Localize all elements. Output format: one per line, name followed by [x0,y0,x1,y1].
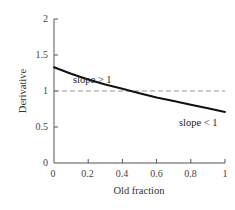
y-axis-title: Derivative [17,69,28,114]
chart: 2 1.5 1 0.5 0 0 0.2 0.4 0.6 0.8 1 Old fr… [0,0,235,210]
x-tick-label: 0.8 [184,168,197,179]
y-tick-label: 2 [43,13,48,24]
y-tick-label: 0 [43,157,48,168]
y-ticks [54,19,58,127]
y-tick-label: 1 [43,85,48,96]
annotation-slope-greater: slope > 1 [73,74,112,85]
y-tick-label: 1.5 [36,49,49,60]
x-tick-label: 1 [223,168,228,179]
x-tick-label: 0.2 [81,168,94,179]
x-tick-label: 0 [51,168,56,179]
x-axis-title: Old fraction [113,185,165,196]
x-tick-label: 0.4 [116,168,129,179]
x-ticks [88,159,225,163]
annotation-slope-less: slope < 1 [179,117,218,128]
x-tick-label: 0.6 [150,168,163,179]
y-tick-label: 0.5 [36,121,49,132]
